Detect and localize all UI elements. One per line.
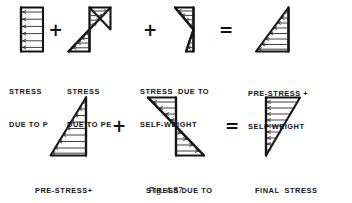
diagram-stress-due-to-p: [21, 8, 43, 52]
label-stress-due-to-pe: STRESS DUE TO Pe: [67, 64, 112, 152]
label-final-stress: FINAL STRESS: [255, 163, 317, 203]
label-stress-due-to-self-weight: STRESS DUE TO SELF-WEIGHT: [140, 64, 209, 152]
label-line: STRESS: [67, 86, 112, 97]
label-stress-due-to-p: STRESS DUE TO P: [9, 64, 48, 152]
operator-plus-2: +: [143, 20, 157, 40]
label-pre-stress-plus-self-weight: PRE-STRESS+ SELF-WEIGHT: [35, 163, 93, 203]
label-line: STRESS: [9, 86, 48, 97]
figure-caption: Fig. 4.87: [149, 186, 183, 195]
diagram-stress-due-to-pe: [69, 8, 111, 52]
label-line: DUE TO Pe: [67, 119, 112, 130]
label-line: DUE TO P: [9, 119, 48, 130]
label-line: STRESS DUE TO: [140, 86, 209, 97]
label-stress-due-to-applied-load: STRESS DUE TO APPLIED LOAD: [146, 163, 213, 203]
operator-plus-3: +: [112, 116, 126, 136]
operator-plus-1: +: [48, 20, 62, 40]
label-line: PRE-STRESS +: [248, 88, 308, 99]
label-line: PRE-STRESS+: [35, 185, 93, 196]
label-pre-stress-plus-self-weight-result: PRE-STRESS + SELF WEIGHT: [248, 66, 308, 154]
diagram-pre-stress-plus-self-weight-result: [256, 8, 289, 52]
figure-root: +: [0, 0, 352, 203]
label-line: FINAL STRESS: [255, 185, 317, 196]
operator-equals-1: =: [219, 20, 233, 40]
operator-equals-2: =: [225, 116, 239, 136]
label-line: SELF WEIGHT: [248, 121, 308, 132]
label-line: SELF-WEIGHT: [140, 119, 209, 130]
diagram-stress-due-to-self-weight: [175, 8, 194, 52]
